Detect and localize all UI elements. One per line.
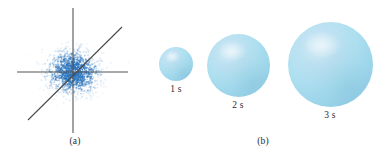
sphere-2s bbox=[207, 34, 270, 97]
sphere-label-2s: 2 s bbox=[193, 100, 284, 110]
panel-b-caption: (b) bbox=[150, 136, 376, 146]
panel-a-scatter: (a) bbox=[0, 0, 150, 162]
sphere-highlight bbox=[220, 42, 245, 60]
sphere-label-1s: 1 s bbox=[145, 84, 207, 94]
point-cloud bbox=[29, 34, 130, 108]
panel-a-caption: (a) bbox=[0, 136, 150, 146]
sphere-3s bbox=[288, 22, 373, 107]
scatter-plot-svg bbox=[0, 0, 150, 135]
sphere-label-3s: 3 s bbox=[274, 110, 376, 120]
figure-root: (a) 1 s2 s3 s (b) bbox=[0, 0, 376, 162]
sphere-1s bbox=[159, 47, 193, 81]
